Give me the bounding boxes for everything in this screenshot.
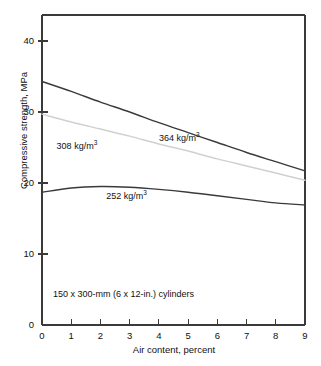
x-tick-label: 7 (239, 330, 255, 341)
x-tick-label: 0 (34, 330, 50, 341)
x-tick-label: 6 (209, 330, 225, 341)
series-label-exponent: 3 (94, 139, 98, 146)
x-axis-ticks (71, 319, 276, 325)
y-tick-label: 0 (12, 319, 34, 330)
series-curve-364-kg-m3 (42, 81, 305, 170)
x-axis-title: Air content, percent (42, 344, 306, 355)
x-tick-label: 5 (180, 330, 196, 341)
series-label-364-kg-m3: 364 kg/m3 (159, 133, 200, 143)
chart-figure: 0102030400123456789 Air content, percent… (0, 0, 321, 366)
y-axis-title: Compressive strength, MPa (18, 61, 29, 201)
y-tick-label: 10 (12, 248, 34, 259)
series-label-exponent: 3 (143, 189, 147, 196)
series-label-252-kg-m3: 252 kg/m3 (106, 191, 147, 201)
y-tick-label: 40 (12, 35, 34, 46)
series-curve-252-kg-m3 (42, 187, 305, 205)
series-label-text: 308 kg/m (57, 141, 94, 151)
x-tick-label: 1 (63, 330, 79, 341)
x-tick-label: 3 (122, 330, 138, 341)
x-tick-label: 8 (268, 330, 284, 341)
series-label-308-kg-m3: 308 kg/m3 (57, 141, 98, 151)
plot-area (0, 0, 321, 366)
cylinder-size-note: 150 x 300-mm (6 x 12-in.) cylinders (53, 289, 194, 299)
x-tick-label: 2 (92, 330, 108, 341)
series-label-text: 364 kg/m (159, 133, 196, 143)
series-label-text: 252 kg/m (106, 191, 143, 201)
series-label-exponent: 3 (196, 131, 200, 138)
x-tick-label: 9 (297, 330, 313, 341)
x-tick-label: 4 (151, 330, 167, 341)
